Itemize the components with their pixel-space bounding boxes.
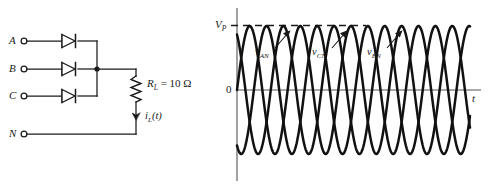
arrow-to-van — [275, 31, 290, 48]
waveform-annotation-arrows — [0, 0, 490, 191]
figure-root: A B C N RL = 10 Ω iL(t) VP 0 t vAN vCN v… — [0, 0, 490, 191]
arrow-to-vbn — [387, 31, 402, 48]
arrow-to-vcn — [332, 31, 347, 48]
